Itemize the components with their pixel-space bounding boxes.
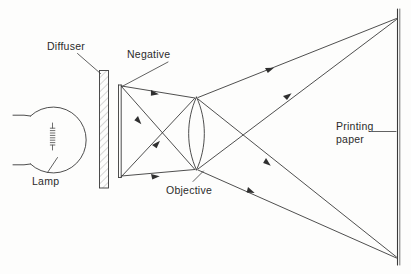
label-objective: Objective: [166, 184, 212, 196]
negative-glyph: [119, 62, 169, 178]
ray-arrowheads-right: [246, 65, 293, 195]
label-lamp: Lamp: [32, 175, 59, 187]
diffuser-glyph: [78, 54, 109, 189]
arrowhead-bottom-to-lens-bottom: [151, 173, 160, 179]
objective-leader-line: [193, 171, 204, 182]
ray-top-to-lens-bottom: [122, 87, 195, 170]
lens-left-surface: [189, 97, 197, 170]
lamp-filament: [50, 123, 55, 150]
objective-lens-glyph: [189, 97, 205, 182]
ray-bottom-to-lens-top: [122, 99, 195, 177]
lamp-glyph: [13, 107, 86, 173]
lamp-neck-bottom: [13, 164, 31, 165]
arrowhead-lens-top-to-paper-bottom: [263, 158, 273, 168]
arrowhead-bottom-to-lens-top: [152, 139, 162, 149]
ray-top-to-lens-top: [122, 86, 196, 98]
label-printing-paper-line1: Printing: [336, 120, 374, 132]
arrowhead-lens-bottom-to-paper-bottom: [246, 187, 256, 195]
ray-lens-top-to-paper-top: [198, 19, 397, 98]
ray-group-negative-to-lens: [122, 86, 196, 177]
arrowhead-lens-top-to-paper-top: [265, 65, 275, 73]
ray-arrowheads-left: [134, 90, 162, 180]
ray-bottom-to-lens-bottom: [122, 170, 196, 177]
label-negative: Negative: [127, 48, 170, 60]
lamp-leader-line: [48, 158, 58, 173]
label-diffuser: Diffuser: [47, 40, 85, 52]
arrowhead-top-to-lens-bottom: [134, 116, 144, 126]
lamp-neck-top: [13, 115, 31, 116]
optical-diagram-canvas: Diffuser Negative Lamp Objective Printin…: [0, 0, 411, 274]
lens-right-surface: [197, 97, 205, 170]
ray-lens-bottom-to-paper-top: [198, 20, 397, 170]
ray-lens-bottom-to-paper-bottom: [198, 170, 397, 258]
arrowhead-lens-bottom-to-paper-top: [283, 91, 293, 101]
label-printing-paper-line2: paper: [336, 133, 364, 145]
label-printing-paper: Printing paper: [336, 120, 384, 146]
negative-leader-line: [122, 62, 168, 87]
diffuser-leader-line: [78, 54, 101, 74]
lamp-bulb-outline: [31, 107, 87, 173]
